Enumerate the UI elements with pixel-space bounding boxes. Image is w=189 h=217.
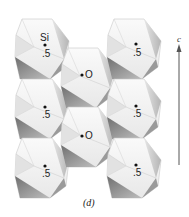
height-label: O [85,70,93,80]
atom-label-si: Si [40,33,49,43]
height-label: O [85,131,93,141]
atom-dot [134,42,137,45]
atom-dot [43,43,46,46]
octahedra-svg [0,0,189,217]
height-label: .5 [133,109,141,119]
height-label: .5 [133,168,141,178]
height-label: .5 [42,49,50,59]
atom-dot [80,134,83,137]
octahedra-chain-diagram: Si .5 .5 .5 O O .5 .5 .5 c (d) [0,0,189,217]
c-axis-arrowhead-icon [177,44,182,52]
figure-caption: (d) [83,197,95,208]
atom-dot [80,73,83,76]
height-label: .5 [42,110,50,120]
height-label: .5 [42,169,50,179]
height-label: .5 [133,48,141,58]
c-axis-label: c [177,34,181,44]
